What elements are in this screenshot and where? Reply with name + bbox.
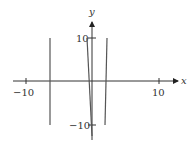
x-tick-label-neg10: −10 [13,87,34,98]
chart-canvas: −10 10 10 −10 x y [0,0,191,151]
y-axis-label: y [88,6,95,17]
y-tick-label-neg10: −10 [69,120,90,131]
x-tick-label-pos10: 10 [152,87,165,98]
x-axis-label: x [181,75,187,86]
